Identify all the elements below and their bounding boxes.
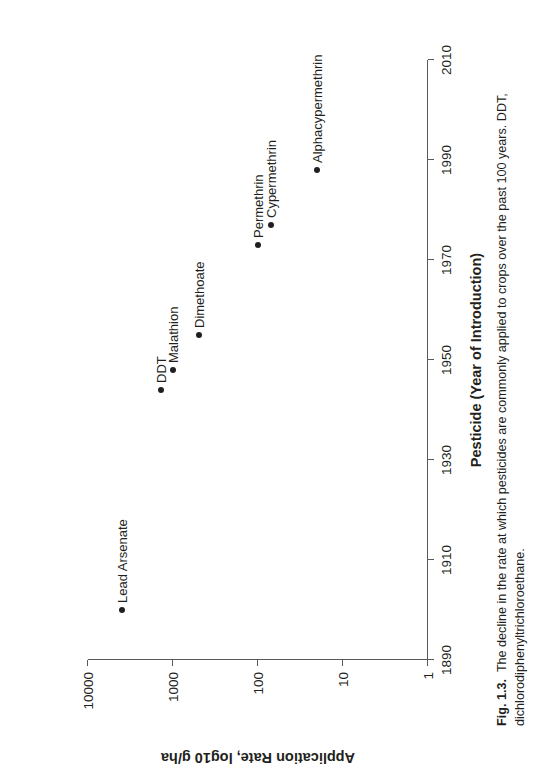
y-tick-label: 10000 [81, 672, 96, 710]
y-tick-label: 1000 [166, 672, 181, 702]
x-tick-label: 1890 [439, 645, 454, 675]
x-tick [428, 259, 434, 260]
data-point-label: Malathion [166, 307, 181, 363]
y-tick [172, 660, 173, 666]
data-point-label: Alphacypermethrin [310, 55, 325, 163]
data-point [314, 167, 320, 173]
y-tick [342, 660, 343, 666]
data-point-label: Cypermethrin [264, 140, 279, 218]
y-tick-label: 100 [251, 672, 266, 695]
x-tick [428, 459, 434, 460]
data-point [170, 367, 176, 373]
data-point-label: Dimethoate [191, 262, 206, 328]
data-point [119, 607, 125, 613]
x-tick [428, 159, 434, 160]
x-tick-label: 1990 [439, 145, 454, 175]
x-tick-label: 1910 [439, 545, 454, 575]
data-point [158, 387, 164, 393]
y-tick [87, 660, 88, 666]
data-point-label: Lead Arsenate [114, 519, 129, 603]
x-axis-line [427, 60, 428, 660]
data-point [268, 222, 274, 228]
y-axis-line [88, 659, 428, 660]
figure-caption-text: The decline in the rate at which pestici… [495, 93, 527, 726]
x-tick [428, 659, 434, 660]
data-point [255, 242, 261, 248]
y-tick [257, 660, 258, 666]
x-tick-label: 1950 [439, 345, 454, 375]
y-tick [427, 660, 428, 666]
scatter-plot: 1890191019301950197019902010 11010010001… [88, 60, 428, 660]
x-tick [428, 359, 434, 360]
x-tick-label: 2010 [439, 45, 454, 75]
x-tick-label: 1970 [439, 245, 454, 275]
x-tick [428, 59, 434, 60]
y-tick-label: 10 [336, 672, 351, 687]
y-axis-title: Application Rate, log10 g/ha [108, 750, 408, 766]
y-tick-label: 1 [421, 672, 436, 680]
figure-caption: Fig. 1.3.The decline in the rate at whic… [493, 26, 530, 726]
data-point [196, 332, 202, 338]
x-tick [428, 559, 434, 560]
x-axis-title: Pesticide (Year of Introduction) [468, 60, 484, 660]
figure-number: Fig. 1.3. [495, 679, 509, 726]
x-tick-label: 1930 [439, 445, 454, 475]
